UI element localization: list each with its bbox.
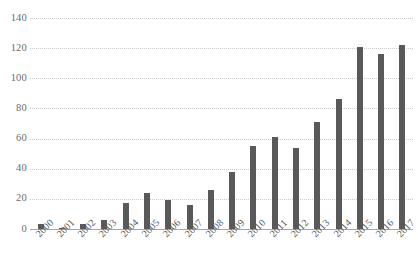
y-tick-label-40: 40 [1,163,27,174]
bar-slot [349,18,370,229]
bar-slot [328,18,349,229]
bar-2015 [357,47,363,229]
x-tick-2008 [211,229,212,232]
x-tick-2004 [126,229,127,232]
x-tick-2013 [317,229,318,232]
y-tick-label-80: 80 [1,103,27,114]
y-tick-label-100: 100 [1,73,27,84]
x-tick-2000 [41,229,42,232]
x-tick-2002 [83,229,84,232]
x-tick-2001 [62,229,63,232]
x-tick-2015 [360,229,361,232]
bar-2010 [250,146,256,229]
bar-slot [243,18,264,229]
x-tick-2014 [339,229,340,232]
y-tick-label-20: 20 [1,193,27,204]
bar-slot [200,18,221,229]
bar-slot [94,18,115,229]
y-tick-label-60: 60 [1,133,27,144]
x-tick-2009 [232,229,233,232]
bar-2014 [336,99,342,229]
bar-2011 [272,137,278,229]
bar-slot [285,18,306,229]
bar-chart: 140120100806040200 200020012002200320042… [0,0,418,275]
x-tick-2007 [190,229,191,232]
bar-2016 [378,54,384,229]
y-tick-label-120: 120 [1,43,27,54]
bar-slot [370,18,391,229]
bar-2013 [314,122,320,229]
bar-slot [115,18,136,229]
bar-slot [179,18,200,229]
x-tick-2006 [168,229,169,232]
x-tick-2010 [253,229,254,232]
x-tick-2016 [381,229,382,232]
x-tick-2017 [402,229,403,232]
bar-2017 [399,45,405,229]
bar-slot [264,18,285,229]
bar-slot [158,18,179,229]
y-tick-label-140: 140 [1,13,27,24]
bar-slot [51,18,72,229]
bar-slot [136,18,157,229]
bar-slot [222,18,243,229]
y-tick-label-0: 0 [1,224,27,235]
y-axis: 140120100806040200 [0,0,27,275]
bar-slot [392,18,413,229]
x-tick-2012 [296,229,297,232]
bar-slot [307,18,328,229]
x-axis: 2000200120022003200420052006200720082009… [30,232,413,275]
x-tick-2011 [275,229,276,232]
x-tick-2005 [147,229,148,232]
bar-2012 [293,148,299,229]
bar-slot [30,18,51,229]
bar-slot [73,18,94,229]
x-tick-2003 [104,229,105,232]
